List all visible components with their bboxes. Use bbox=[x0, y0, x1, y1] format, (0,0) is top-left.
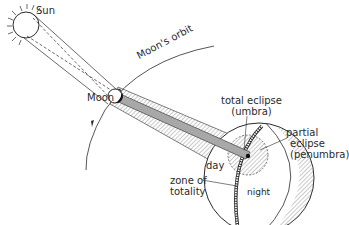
partial-eclipse-label-line3: (penumbra) bbox=[290, 149, 349, 160]
day-label: day bbox=[206, 160, 224, 171]
night-label: night bbox=[247, 187, 270, 198]
zone-of-totality-label: zone of totality bbox=[170, 175, 207, 197]
total-eclipse-label-line2: (umbra) bbox=[221, 106, 282, 117]
zone-of-totality-label-line2: totality bbox=[170, 186, 207, 197]
zone-of-totality-label-line1: zone of bbox=[170, 175, 207, 186]
total-eclipse-label: total eclipse (umbra) bbox=[221, 95, 282, 117]
moon-label: Moon bbox=[87, 92, 114, 103]
sun-label: Sun bbox=[36, 5, 55, 16]
partial-eclipse-label-line1: partial bbox=[286, 127, 349, 138]
total-eclipse-label-line1: total eclipse bbox=[221, 95, 282, 106]
partial-eclipse-label: partial eclipse (penumbra) bbox=[286, 127, 349, 160]
umbra-spot bbox=[246, 154, 250, 158]
partial-eclipse-label-line2: eclipse bbox=[290, 138, 349, 149]
orbit-direction-arrow-icon bbox=[91, 120, 94, 127]
